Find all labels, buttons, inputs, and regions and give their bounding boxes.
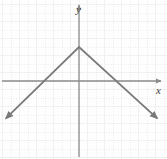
grid-layer (0, 0, 167, 159)
graph-figure: y x (0, 0, 167, 159)
graph-canvas (0, 0, 167, 159)
y-axis-label: y (76, 4, 81, 15)
x-axis-label: x (156, 85, 161, 96)
